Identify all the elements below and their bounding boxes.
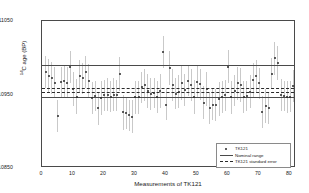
data-point (79, 75, 81, 77)
data-point (190, 84, 192, 86)
data-point (234, 90, 236, 92)
data-point (243, 96, 245, 98)
data-point (147, 90, 149, 92)
legend-item-tk121: TK121 (220, 146, 287, 152)
data-point (268, 107, 270, 109)
legend-dashed-line-key (220, 159, 233, 165)
data-point (91, 97, 93, 99)
data-point (85, 71, 87, 73)
data-point (150, 93, 152, 95)
y-tick (41, 21, 42, 22)
legend-item-standard-error: TK121 standard error (220, 159, 287, 165)
data-point (119, 73, 121, 75)
legend-label-standard-error: TK121 standard error (235, 159, 277, 165)
data-point (63, 80, 65, 82)
data-point (131, 116, 133, 118)
x-tick-label: 40 (162, 170, 168, 176)
data-point (261, 111, 263, 113)
legend-marker-key (220, 146, 233, 152)
data-point (187, 80, 189, 82)
data-point (255, 75, 257, 77)
data-point (252, 79, 254, 81)
data-point (271, 73, 273, 75)
data-point (45, 71, 47, 73)
x-tick-label: 0 (40, 170, 43, 176)
data-point (76, 96, 78, 98)
x-tick-label: 50 (193, 170, 199, 176)
data-point (128, 114, 130, 116)
data-point (141, 86, 143, 88)
legend-item-nominal-range: Nominal range (220, 153, 287, 159)
data-point (88, 80, 90, 82)
data-point (178, 91, 180, 93)
data-point (181, 82, 183, 84)
data-point (54, 82, 56, 84)
reference-line-standard-error-lower (42, 92, 294, 93)
x-tick-label: 20 (100, 170, 106, 176)
legend: TK121 Nominal range TK121 standard error (216, 143, 291, 168)
x-tick-label: 60 (224, 170, 230, 176)
data-point (212, 104, 214, 106)
data-point (144, 84, 146, 86)
y-axis-title: 14C age (BP) (19, 13, 27, 103)
data-point (113, 94, 115, 96)
data-point (240, 84, 242, 86)
data-point (60, 81, 62, 83)
legend-label-tk121: TK121 (235, 146, 248, 152)
data-point (249, 91, 251, 93)
legend-solid-line-key (220, 153, 233, 159)
x-tick (166, 166, 167, 167)
radiocarbon-age-scatter-figure: 108501095011050 01020304050607080 14C ag… (0, 0, 309, 193)
data-point (125, 112, 127, 114)
y-tick-label: 10850 (0, 164, 13, 170)
reference-line-standard-error-upper (42, 88, 294, 89)
data-point (48, 75, 50, 77)
x-tick (104, 166, 105, 167)
data-point (172, 84, 174, 86)
data-point (203, 102, 205, 104)
x-tick-label: 30 (131, 170, 137, 176)
data-point (162, 51, 164, 53)
data-point (292, 85, 294, 87)
x-tick (197, 166, 198, 167)
data-point (218, 98, 220, 100)
data-point (107, 94, 109, 96)
data-point (221, 96, 223, 98)
data-point (206, 88, 208, 90)
x-tick-label: 10 (69, 170, 75, 176)
y-tick-label: 10950 (0, 91, 13, 97)
data-point (110, 96, 112, 98)
x-axis-title: Measurements of TK121 (41, 180, 295, 187)
legend-label-nominal-range: Nominal range (235, 153, 264, 159)
data-point (57, 115, 59, 117)
data-point (277, 62, 279, 64)
reference-line-nominal-range-lower (42, 97, 294, 98)
data-point (153, 92, 155, 94)
data-point (165, 104, 167, 106)
y-tick-label: 11050 (0, 17, 13, 23)
x-tick (135, 166, 136, 167)
x-tick (73, 166, 74, 167)
data-point (122, 111, 124, 113)
data-point (286, 96, 288, 98)
data-point (66, 82, 68, 84)
x-tick-label: 80 (286, 170, 292, 176)
data-point (156, 96, 158, 98)
reference-line-nominal-range-upper (42, 65, 294, 66)
data-point (215, 104, 217, 106)
data-point (169, 67, 171, 69)
data-point (209, 107, 211, 109)
data-point (175, 93, 177, 95)
data-point (265, 105, 267, 107)
data-point (246, 95, 248, 97)
x-tick-label: 70 (255, 170, 261, 176)
x-tick (42, 166, 43, 167)
data-point (196, 81, 198, 83)
y-tick (41, 95, 42, 96)
